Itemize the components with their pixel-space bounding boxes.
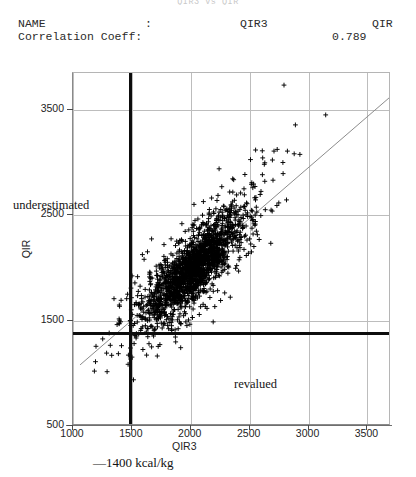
- x-tick-mark-1000: [72, 425, 73, 430]
- annotation-revalued: revalued: [234, 377, 277, 392]
- name-value: QIR3: [240, 17, 268, 30]
- report-header: QIR3 vs QIR NAME : QIR3 QIR Correlation …: [0, 0, 416, 50]
- name-colon: :: [145, 17, 152, 30]
- annotation-underestimated: underestimated: [13, 198, 89, 213]
- x-axis-title: QIR3: [172, 440, 197, 452]
- name-label: NAME: [18, 17, 46, 30]
- name-right-value: QIR: [372, 17, 393, 30]
- correlation-value: 0.789: [332, 30, 367, 43]
- y-tick-mark-1500: [67, 320, 73, 321]
- correlation-label: Correlation Coeff:: [18, 30, 142, 43]
- x-tick-mark-1500: [131, 425, 132, 430]
- x-tick-mark-3000: [308, 425, 309, 430]
- annotation-threshold-kcal: —1400 kcal/kg: [93, 455, 174, 471]
- y-tick-mark-3500: [67, 109, 73, 110]
- horizontal-threshold-line: [73, 332, 389, 335]
- x-tick-mark-3500: [366, 425, 367, 430]
- x-tick-mark-2000: [190, 425, 191, 430]
- report-row-correlation: Correlation Coeff: 0.789: [0, 30, 416, 45]
- y-tick-mark-2500: [67, 214, 73, 215]
- scatter-points-layer: [73, 73, 390, 425]
- y-tick-label-3500: 3500: [24, 102, 64, 114]
- scatter-markers: [92, 83, 328, 383]
- x-tick-mark-2500: [249, 425, 250, 430]
- scatter-plot-panel: [72, 72, 390, 425]
- y-axis-title: QIR: [20, 219, 32, 279]
- vertical-threshold-line: [129, 73, 132, 424]
- y-tick-label-1500: 1500: [24, 313, 64, 325]
- page-title: QIR3 vs QIR: [0, 0, 416, 5]
- x-axis-rule: [66, 425, 392, 426]
